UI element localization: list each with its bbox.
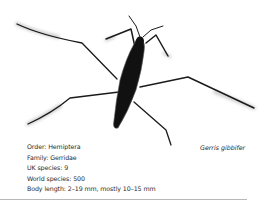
facts-list: Order: Hemiptera Family: Gerridae UK spe… [27, 142, 156, 195]
fact-family: Family: Gerridae [27, 153, 156, 164]
divider-rule [0, 199, 247, 200]
left-antenna [129, 16, 140, 37]
insect-body [114, 37, 145, 129]
fact-uk-species: UK species: 9 [27, 163, 156, 174]
fact-body-length: Body length: 2–19 mm, mostly 10–15 mm [27, 184, 156, 195]
fact-order: Order: Hemiptera [27, 142, 156, 153]
species-name: Gerris gibbifer [200, 144, 245, 151]
right-antenna [143, 26, 163, 37]
fact-world-species: World species: 500 [27, 174, 156, 185]
hind-right-leg [134, 102, 171, 145]
mid-right-leg [140, 77, 254, 108]
front-left-leg [106, 29, 135, 47]
mid-left-leg [17, 24, 117, 79]
